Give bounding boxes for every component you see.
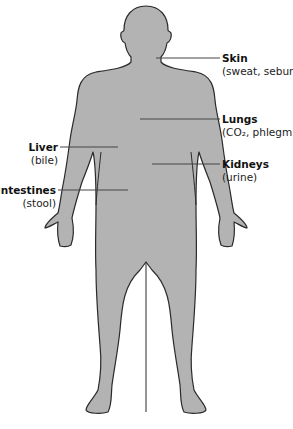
organ-name-intestines: Intestines xyxy=(0,184,56,197)
label-skin: Skin (sweat, sebum) xyxy=(222,52,293,78)
label-kidneys: Kidneys (urine) xyxy=(222,158,269,184)
organ-name-kidneys: Kidneys xyxy=(222,158,269,171)
label-liver: Liver (bile) xyxy=(29,141,58,167)
excretion-intestines: (stool) xyxy=(0,197,56,210)
organ-name-liver: Liver xyxy=(29,141,58,154)
organ-name-skin: Skin xyxy=(222,52,293,65)
excretion-kidneys: (urine) xyxy=(222,171,269,184)
excretion-lungs: (CO₂, phlegm) xyxy=(222,126,293,139)
body-silhouette xyxy=(45,6,247,413)
excretion-skin: (sweat, sebum) xyxy=(222,65,293,78)
organ-name-lungs: Lungs xyxy=(222,113,293,126)
label-intestines: Intestines (stool) xyxy=(0,184,56,210)
excretion-liver: (bile) xyxy=(29,154,58,167)
label-lungs: Lungs (CO₂, phlegm) xyxy=(222,113,293,139)
